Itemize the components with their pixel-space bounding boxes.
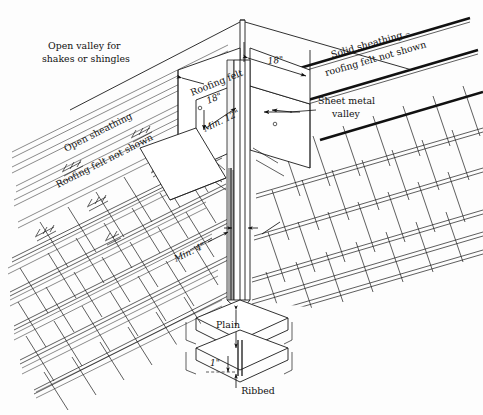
label-ribbed: Ribbed <box>241 385 275 396</box>
label-sheet-metal-line1: Sheet metal <box>318 95 375 106</box>
valley-trough-center <box>234 60 250 300</box>
label-sheet-metal-line2: valley <box>331 108 360 119</box>
roof-valley-figure: Open valley for shakes or shingles Solid… <box>0 0 483 415</box>
diagram-canvas: Open valley for shakes or shingles Solid… <box>0 0 483 415</box>
label-plain: Plain <box>216 319 240 330</box>
label-one-inch: 1" <box>210 358 220 368</box>
label-open-valley-line2: shakes or shingles <box>42 53 130 64</box>
label-dim-18: 18" <box>267 54 284 66</box>
label-open-valley-line1: Open valley for <box>48 40 121 51</box>
